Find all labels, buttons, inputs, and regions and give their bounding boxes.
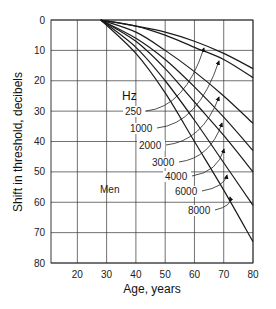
- x-axis-label: Age, years: [123, 282, 180, 296]
- y-tick-label: 70: [34, 227, 46, 238]
- y-tick-label: 80: [34, 258, 46, 269]
- y-tick-label: 30: [34, 106, 46, 117]
- x-tick-label: 80: [247, 269, 259, 280]
- y-tick-label: 20: [34, 75, 46, 86]
- y-axis-ticks: 01020304050607080: [34, 15, 46, 269]
- annotation-men: Men: [100, 184, 119, 195]
- x-tick-label: 60: [189, 269, 201, 280]
- y-tick-label: 10: [34, 45, 46, 56]
- leader-arrow-8000hz: [215, 197, 230, 210]
- x-tick-label: 70: [218, 269, 230, 280]
- series-label-1000hz: 1000: [130, 123, 153, 134]
- series-label-4000hz: 4000: [165, 171, 188, 182]
- series-label-250hz: 250: [125, 106, 142, 117]
- y-tick-label: 40: [34, 136, 46, 147]
- series-label-8000hz: 8000: [188, 205, 211, 216]
- series-labels: 250100020003000400060008000: [123, 106, 214, 216]
- series-label-2000hz: 2000: [139, 140, 162, 151]
- y-tick-label: 50: [34, 166, 46, 177]
- x-tick-label: 30: [101, 269, 113, 280]
- x-tick-label: 20: [72, 269, 84, 280]
- series-curve-8000hz: [101, 20, 253, 242]
- series-label-3000hz: 3000: [152, 157, 175, 168]
- series-curve-1000hz: [101, 20, 253, 78]
- series-curves: [101, 20, 253, 242]
- y-axis-label: Shift in threshold, decibels: [11, 72, 25, 212]
- x-axis-ticks: 20304050607080: [72, 269, 259, 280]
- y-tick-label: 0: [39, 15, 45, 26]
- legend-title: Hz: [122, 89, 137, 103]
- x-tick-label: 40: [130, 269, 142, 280]
- x-tick-label: 50: [160, 269, 172, 280]
- series-label-6000hz: 6000: [175, 186, 198, 197]
- hearing-threshold-chart: 250100020003000400060008000 010203040506…: [0, 0, 276, 309]
- y-tick-label: 60: [34, 197, 46, 208]
